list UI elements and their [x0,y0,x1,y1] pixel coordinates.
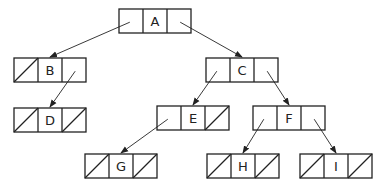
pointer-arrow-c-e [193,71,217,105]
tree-node-a: A [119,9,191,33]
null-right-pointer-icon [348,154,372,178]
tree-node-h: H [207,154,279,178]
null-left-pointer-icon [85,154,109,178]
node-label: E [189,111,197,126]
node-label: H [238,159,248,174]
nodes-layer: ABCDEFGHI [14,9,372,178]
edges-layer [50,22,336,153]
null-right-pointer-icon [255,154,279,178]
node-label: I [334,159,338,174]
null-right-pointer-icon [205,106,229,130]
null-left-pointer-icon [300,154,324,178]
binary-tree-diagram: ABCDEFGHI [0,0,385,189]
pointer-arrow-e-g [121,119,168,153]
tree-node-d: D [14,108,86,132]
pointer-arrow-a-b [50,22,130,57]
tree-canvas: ABCDEFGHI [0,0,385,189]
node-label: F [285,111,292,126]
tree-node-f: F [253,106,325,130]
null-right-pointer-icon [133,154,157,178]
tree-node-i: I [300,154,372,178]
null-right-pointer-icon [62,108,86,132]
tree-node-b: B [14,58,86,82]
tree-node-e: E [157,106,229,130]
tree-node-g: G [85,154,157,178]
node-label: C [237,63,246,78]
node-label: G [116,159,126,174]
null-left-pointer-icon [207,154,231,178]
node-label: D [45,113,55,128]
null-left-pointer-icon [14,58,38,82]
pointer-arrow-a-c [180,22,242,57]
tree-node-c: C [206,58,278,82]
null-left-pointer-icon [14,108,38,132]
node-label: B [46,63,55,78]
node-label: A [151,14,160,29]
